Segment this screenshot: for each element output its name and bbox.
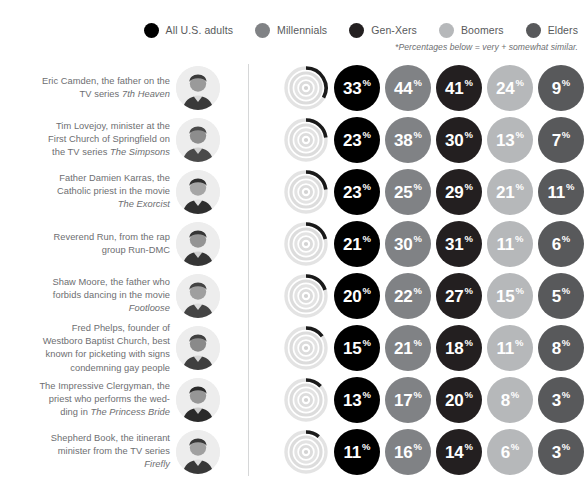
legend-label: Elders (548, 24, 578, 36)
portrait-fred-phelps (176, 326, 220, 370)
value-number: 24 (496, 80, 514, 97)
target-gauge-icon (283, 117, 329, 163)
value-number: 27 (445, 288, 463, 305)
value-number: 25 (394, 184, 412, 201)
value-bubble-millennials: 16% (385, 429, 431, 475)
portrait-damien-karras (176, 170, 220, 214)
row-label: Eric Camden, the father on theTV series … (12, 75, 170, 101)
percent-sign: % (413, 130, 421, 140)
value-number: 8 (552, 340, 561, 357)
row-label: Shepherd Book, the itinerantminister fro… (12, 432, 170, 472)
value-bubble-all: 20% (334, 273, 380, 319)
value-bubble-boomers: 6% (487, 429, 533, 475)
portrait-tim-lovejoy (176, 118, 220, 162)
chart-rows: Eric Camden, the father on theTV series … (0, 62, 586, 478)
percent-sign: % (464, 286, 472, 296)
chart-row: Shaw Moore, the father whoforbids dancin… (0, 270, 586, 322)
value-number: 44 (394, 80, 412, 97)
value-bubble-all: 15% (334, 325, 380, 371)
value-bubble-boomers: 21% (487, 169, 533, 215)
row-label: Reverend Run, from the rapgroup Run-DMC (12, 231, 170, 257)
value-number: 41 (445, 80, 463, 97)
value-number: 3 (552, 444, 561, 461)
percent-sign: % (515, 338, 523, 348)
percent-sign: % (562, 286, 570, 296)
target-gauge-icon (283, 429, 329, 475)
row-values: 13%17%20%8%3% (283, 377, 584, 423)
value-bubble-all: 23% (334, 117, 380, 163)
percent-sign: % (562, 338, 570, 348)
legend-label: Gen-Xers (371, 24, 417, 36)
value-number: 23 (343, 184, 361, 201)
row-values: 11%16%14%6%3% (283, 429, 584, 475)
value-number: 21 (343, 236, 361, 253)
chart-row: Eric Camden, the father on theTV series … (0, 62, 586, 114)
value-bubble-boomers: 8% (487, 377, 533, 423)
value-bubble-genxers: 14% (436, 429, 482, 475)
percent-sign: % (515, 78, 523, 88)
value-number: 3 (552, 392, 561, 409)
percent-sign: % (562, 130, 570, 140)
value-bubble-millennials: 38% (385, 117, 431, 163)
value-number: 7 (552, 132, 561, 149)
value-bubble-all: 11% (334, 429, 380, 475)
legend-item-boomers: Boomers (439, 23, 504, 38)
row-values: 20%22%27%15%5% (283, 273, 584, 319)
chart-row: Shepherd Book, the itinerantminister fro… (0, 426, 586, 478)
row-label: Shaw Moore, the father whoforbids dancin… (12, 276, 170, 316)
percent-sign: % (413, 338, 421, 348)
percent-sign: % (464, 78, 472, 88)
percent-sign: % (515, 130, 523, 140)
value-number: 33 (343, 80, 361, 97)
percent-sign: % (511, 390, 519, 400)
row-values: 15%21%18%11%8% (283, 325, 584, 371)
value-bubble-elders: 7% (538, 117, 584, 163)
chart-row: Father Damien Karras, theCatholic priest… (0, 166, 586, 218)
row-label: Tim Lovejoy, minister at theFirst Church… (12, 120, 170, 160)
value-number: 16 (394, 444, 412, 461)
value-bubble-millennials: 30% (385, 221, 431, 267)
value-number: 30 (394, 236, 412, 253)
legend: All U.S. adultsMillennialsGen-XersBoomer… (0, 18, 586, 42)
value-bubble-elders: 9% (538, 65, 584, 111)
value-number: 31 (445, 236, 463, 253)
percent-sign: % (464, 390, 472, 400)
value-number: 22 (394, 288, 412, 305)
value-number: 29 (445, 184, 463, 201)
value-number: 18 (445, 340, 463, 357)
value-number: 6 (501, 444, 510, 461)
percent-sign: % (413, 234, 421, 244)
value-number: 5 (552, 288, 561, 305)
legend-swatch-millennials-icon (255, 23, 270, 38)
row-label: The Impressive Clergyman, thepriest who … (12, 380, 170, 420)
legend-item-all: All U.S. adults (144, 23, 233, 38)
percent-sign: % (566, 182, 574, 192)
percent-sign: % (362, 182, 370, 192)
percent-sign: % (362, 286, 370, 296)
value-number: 11 (497, 340, 514, 357)
value-number: 11 (497, 236, 514, 253)
value-bubble-genxers: 30% (436, 117, 482, 163)
percent-sign: % (515, 286, 523, 296)
row-values: 23%38%30%13%7% (283, 117, 584, 163)
row-values: 33%44%41%24%9% (283, 65, 584, 111)
percent-sign: % (464, 234, 472, 244)
percent-sign: % (464, 442, 472, 452)
value-number: 30 (445, 132, 463, 149)
chart-row: Tim Lovejoy, minister at theFirst Church… (0, 114, 586, 166)
percent-sign: % (413, 286, 421, 296)
portrait-reverend-run (176, 222, 220, 266)
value-bubble-genxers: 20% (436, 377, 482, 423)
legend-label: Millennials (277, 24, 327, 36)
chart-row: Reverend Run, from the rapgroup Run-DMC2… (0, 218, 586, 270)
legend-footnote: *Percentages below = very + somewhat sim… (395, 42, 578, 52)
percent-sign: % (464, 130, 472, 140)
legend-label: All U.S. adults (166, 24, 233, 36)
value-number: 38 (394, 132, 412, 149)
percent-sign: % (511, 442, 519, 452)
target-gauge-icon (283, 65, 329, 111)
chart-row: Fred Phelps, founder ofWestboro Baptist … (0, 322, 586, 374)
percent-sign: % (413, 390, 421, 400)
value-bubble-boomers: 15% (487, 273, 533, 319)
value-bubble-millennials: 44% (385, 65, 431, 111)
